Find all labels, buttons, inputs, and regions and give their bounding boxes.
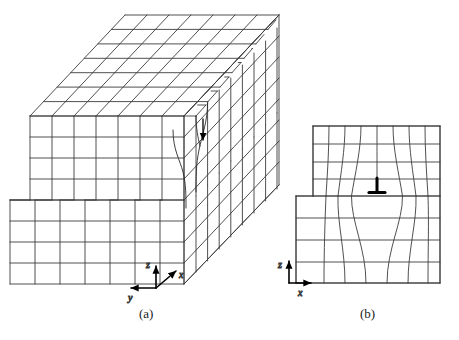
lower-half-planes xyxy=(296,196,440,283)
diagram-canvas: z y x xyxy=(0,0,459,340)
panel-caption-b: (b) xyxy=(360,306,375,322)
figure-edge-dislocation: z y x xyxy=(0,0,459,340)
distorted-planes-3d xyxy=(173,103,208,209)
cross-section-outline xyxy=(296,126,440,283)
axes-a xyxy=(131,266,176,288)
axis-label-x-b: x xyxy=(297,287,303,298)
top-face xyxy=(30,15,279,116)
axes-b xyxy=(289,261,311,283)
axis-label-z-a: z xyxy=(145,259,150,270)
axis-label-z-b: z xyxy=(277,259,282,270)
panel-caption-a: (a) xyxy=(139,306,153,322)
right-face xyxy=(184,15,279,284)
front-face-lower xyxy=(10,200,184,284)
panel-a-3d-block: z y x xyxy=(10,15,279,303)
edge-dislocation-symbol xyxy=(369,178,385,193)
panel-b-cross-section: z x xyxy=(277,126,440,298)
front-face-upper xyxy=(30,116,184,200)
axis-label-x-a: x xyxy=(178,269,184,280)
axis-label-y-a: y xyxy=(127,292,133,303)
lower-half-rows xyxy=(296,196,440,283)
